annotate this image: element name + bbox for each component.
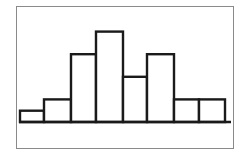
histogram-bar [199,99,225,122]
histogram-bar [147,54,174,122]
histogram-bar [96,32,123,122]
histogram-bar [20,111,44,122]
histogram-chart [0,0,248,157]
histogram-bar [44,99,71,122]
histogram-bar [71,54,96,122]
histogram-bar [174,99,199,122]
histogram-bar [123,77,147,122]
